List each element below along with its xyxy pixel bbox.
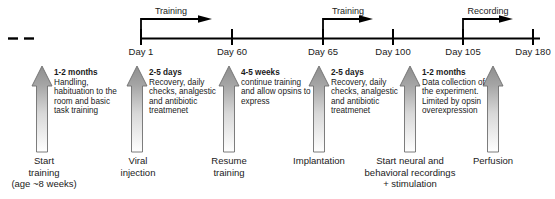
phase-label-training-1: Training (123, 6, 219, 16)
event-line: (age ~8 weeks) (0, 178, 88, 190)
description-text-start-recordings: Data collection of the experiment. Limit… (422, 78, 498, 116)
phase-bracket-training-1 (141, 15, 212, 34)
description-text-implantation: Recovery, daily checks, analgestic and a… (331, 78, 403, 116)
phase-brackets (141, 15, 513, 34)
step-description-start-training: 1-2 months Handling, habituation to the … (54, 68, 124, 116)
duration-implantation: 2-5 days (331, 68, 403, 78)
step-arrow-viral-injection (127, 66, 147, 152)
day-label-day65: Day 65 (283, 46, 363, 57)
duration-start-training: 1-2 months (54, 68, 124, 78)
timeline-ticks (141, 29, 533, 45)
event-line: injection (98, 167, 178, 179)
event-label-start-recordings: Start neural and behavioral recordings +… (350, 155, 470, 190)
phase-label-training-2: Training (300, 6, 396, 16)
step-description-resume-training: 4-5 weeks continue training and allow op… (241, 68, 313, 106)
step-description-viral-injection: 2-5 days Recovery, daily checks, analges… (149, 68, 221, 116)
event-line: + stimulation (350, 178, 470, 190)
phase-bracket-training-2 (323, 15, 373, 34)
duration-start-recordings: 1-2 months (422, 68, 498, 78)
day-label-day60: Day 60 (192, 46, 272, 57)
event-label-viral-injection: Viral injection (98, 155, 178, 178)
event-line: Start neural and (350, 155, 470, 167)
day-label-day105: Day 105 (423, 46, 503, 57)
day-label-day100: Day 100 (353, 46, 433, 57)
duration-viral-injection: 2-5 days (149, 68, 221, 78)
description-text-start-training: Handling, habituation to the room and ba… (54, 78, 124, 116)
event-line: Start (0, 155, 88, 167)
event-line: training (189, 167, 269, 179)
event-line: training (0, 167, 88, 179)
event-line: Resume (189, 155, 269, 167)
step-arrow-start-training (32, 66, 52, 152)
event-line: Viral (98, 155, 178, 167)
step-arrow-start-recordings (400, 66, 420, 152)
duration-resume-training: 4-5 weeks (241, 68, 313, 78)
event-label-resume-training: Resume training (189, 155, 269, 178)
phase-bracket-recording (463, 15, 513, 34)
step-description-implantation: 2-5 days Recovery, daily checks, analges… (331, 68, 403, 116)
description-text-viral-injection: Recovery, daily checks, analgestic and a… (149, 78, 221, 116)
step-description-start-recordings: 1-2 months Data collection of the experi… (422, 68, 498, 116)
phase-label-recording: Recording (440, 6, 536, 16)
day-label-day1: Day 1 (101, 46, 181, 57)
event-line: Perfusion (453, 155, 533, 167)
step-arrow-resume-training (219, 66, 239, 152)
description-text-resume-training: continue training and allow opsins to ex… (241, 78, 313, 107)
event-line: behavioral recordings (350, 167, 470, 179)
event-label-start-training: Start training (age ~8 weeks) (0, 155, 88, 190)
day-label-day180: Day 180 (493, 46, 555, 57)
event-label-perfusion: Perfusion (453, 155, 533, 167)
